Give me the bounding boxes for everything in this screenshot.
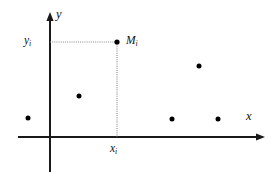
data-point (170, 117, 175, 122)
x-axis-label: x (246, 110, 252, 123)
x-coordinate-label: xi (110, 143, 117, 156)
scatter-plot-figure: y x yi xi Mi (0, 0, 276, 181)
point-label-subscript: i (136, 39, 138, 48)
plot-canvas (0, 0, 276, 181)
point-label-mi: Mi (126, 35, 138, 48)
x-coordinate-subscript: i (115, 147, 117, 156)
data-point (216, 117, 221, 122)
data-point (26, 116, 31, 121)
data-point (77, 94, 82, 99)
data-point-mi (114, 39, 119, 44)
y-axis-arrowhead (46, 12, 53, 21)
data-point (197, 64, 202, 69)
y-coordinate-subscript: i (29, 39, 31, 48)
x-axis-arrowhead (256, 133, 265, 140)
y-coordinate-label: yi (24, 35, 31, 48)
y-axis-label: y (56, 8, 62, 21)
